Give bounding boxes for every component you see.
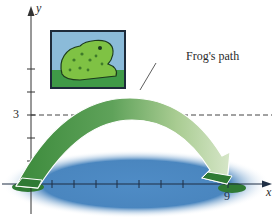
y-axis-label: y	[36, 2, 41, 14]
path-label-leader	[140, 63, 156, 90]
x-tick-label-9: 9	[224, 190, 230, 202]
frog-path-label: Frog's path	[186, 50, 239, 62]
frog-picture	[51, 31, 125, 88]
y-tick-label-3: 3	[13, 108, 19, 120]
diagram-canvas	[0, 0, 279, 218]
frog-jump-diagram: y x 3 9 Frog's path	[0, 0, 279, 218]
x-axis-label: x	[266, 186, 271, 198]
